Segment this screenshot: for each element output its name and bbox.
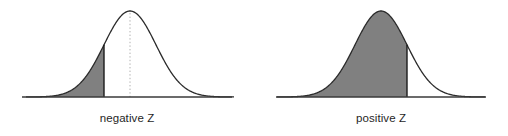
panel-label-positive-z: positive Z [254, 110, 508, 126]
panel-positive-z: positive Z [254, 0, 508, 136]
negative-z-plot [0, 0, 254, 110]
z-distribution-figure: negative Z positive Z [0, 0, 508, 136]
panel-label-negative-z: negative Z [0, 110, 254, 126]
panel-negative-z: negative Z [0, 0, 254, 136]
positive-z-plot [254, 0, 508, 110]
shaded-area-positive-left [277, 11, 485, 97]
